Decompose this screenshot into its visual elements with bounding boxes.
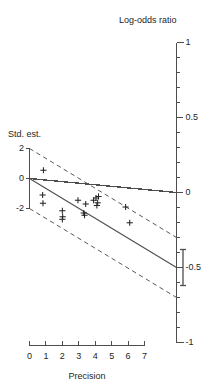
x-tick-label-1: 1: [37, 352, 55, 361]
x-axis-title: Precision: [28, 372, 146, 381]
x-axis: [30, 341, 145, 346]
y-right-tick-label-1: 1: [186, 38, 212, 47]
x-tick-label-5: 5: [103, 352, 121, 361]
y-tick-label--2: -2: [4, 204, 24, 213]
x-tick-label-3: 3: [70, 352, 88, 361]
data-point: [59, 208, 65, 214]
x-tick-label-7: 7: [136, 352, 154, 361]
data-point: [40, 192, 46, 198]
y-axis-left: [26, 149, 30, 209]
data-point: [83, 201, 89, 207]
data-point: [123, 204, 129, 210]
fit-line: [30, 179, 177, 268]
galbraith-plot: 0123456720-210.50-0.5-1 Std. est. Precis…: [0, 0, 217, 392]
plot-canvas: [0, 0, 217, 392]
data-point: [75, 197, 81, 203]
y-right-tick-label--0.5: -0.5: [186, 263, 212, 272]
confidence-band-upper: [30, 149, 177, 238]
x-tick-label-6: 6: [119, 352, 137, 361]
y-axis-left-title: Std. est.: [8, 130, 41, 139]
regression-line: [30, 179, 177, 268]
zero-reference-line: [30, 179, 177, 193]
x-tick-label-2: 2: [53, 352, 71, 361]
y-axis-right-title: Log-odds ratio: [119, 16, 177, 25]
x-tick-label-0: 0: [21, 352, 39, 361]
y-axis-right: [177, 43, 184, 343]
y-right-tick-label--1: -1: [186, 338, 212, 347]
y-tick-label-0: 0: [4, 174, 24, 183]
y-tick-label-2: 2: [4, 144, 24, 153]
data-point: [127, 220, 133, 226]
data-points: [40, 167, 133, 226]
confidence-band-lower: [30, 209, 177, 298]
zero-line: [30, 179, 177, 193]
y-right-tick-label-0: 0: [186, 188, 212, 197]
data-point: [40, 200, 46, 206]
data-point: [40, 167, 46, 173]
data-point: [94, 202, 100, 208]
y-right-tick-label-0.5: 0.5: [186, 113, 212, 122]
x-tick-label-4: 4: [86, 352, 104, 361]
